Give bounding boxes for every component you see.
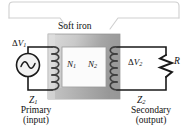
secondary-caption: Secondary (output) [112, 106, 190, 125]
transformer-diagram-figure: Soft iron ΔV1 ΔV2 N1 N2 R Z1 Z2 Primary … [0, 0, 191, 136]
secondary-caption-line2: (output) [112, 116, 190, 126]
n1-label: N1 [67, 60, 76, 69]
delta-v2-label: ΔV2 [128, 58, 142, 67]
n1-subscript: 1 [73, 63, 76, 69]
delta-v1-label: ΔV1 [12, 39, 26, 48]
soft-iron-core [48, 34, 120, 99]
soft-iron-label: Soft iron [58, 22, 92, 32]
soft-iron-callout-bracket [9, 2, 179, 29]
resistor-label: R [174, 57, 180, 67]
delta-v2-subscript: 2 [139, 61, 142, 67]
load-resistor-zigzag [160, 55, 172, 77]
primary-caption-line2: (input) [2, 116, 70, 126]
delta-v1-subscript: 1 [23, 42, 26, 48]
ac-source-symbol [17, 54, 40, 77]
resistor-variable: R [174, 56, 180, 66]
secondary-circuit-wires [117, 47, 166, 90]
primary-caption: Primary (input) [2, 106, 70, 125]
n2-subscript: 2 [94, 63, 97, 69]
n2-label: N2 [88, 60, 97, 69]
